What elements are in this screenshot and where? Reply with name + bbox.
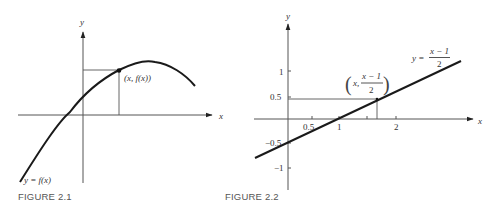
function-curve [20,61,195,182]
point-marker [376,98,379,101]
y-axis-label: y [285,11,290,21]
curve-label: y = f(x) [23,175,51,185]
x-axis-label: x [218,111,223,121]
equation-denominator: 2 [437,59,442,69]
y-tick-label: 0.5 [270,92,282,102]
y-axis-label: y [79,17,84,27]
x-axis-label: x [477,116,482,126]
line-equation-label: y = x − 1 2 [411,46,450,69]
y-tick-label: −1 [274,163,284,173]
figure-caption: FIGURE 2.2 [225,191,279,202]
x-tick-label: 1 [337,122,342,132]
figures-canvas: x y (x, f(x)) y = f(x) FIGURE 2.1 x y 0.… [0,0,494,213]
point-label: (x, f(x)) [124,73,151,83]
point-label-denominator: 2 [369,85,374,95]
equation-lhs: y = [411,53,424,63]
close-paren: ) [383,73,390,96]
y-tick-label: 1 [279,67,284,77]
equation-numerator: x − 1 [429,46,449,56]
figure-2-1: x y (x, f(x)) y = f(x) FIGURE 2.1 [18,17,223,202]
figure-caption: FIGURE 2.1 [18,191,72,202]
point-label-numerator: x − 1 [361,71,381,81]
point-label-x: x, [352,78,359,88]
open-paren: ( [345,73,352,96]
figure-2-2: x y 0.5 1 2 1 0.5 −0.5 −1 ( x, x − 1 [225,11,482,202]
point-marker [117,68,122,73]
linear-function-line [255,61,461,158]
x-tick-label: 2 [394,122,399,132]
point-label: ( x, x − 1 2 ) [345,71,390,96]
